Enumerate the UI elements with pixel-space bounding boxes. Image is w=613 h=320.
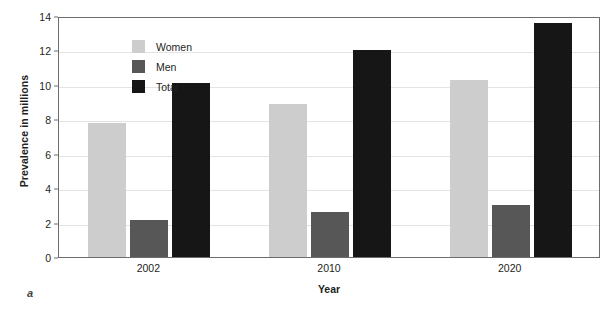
bar-women-2002 xyxy=(88,123,126,257)
legend-label-men: Men xyxy=(156,61,176,73)
y-tick-label: 4 xyxy=(45,183,51,195)
legend-swatch-men-icon xyxy=(132,60,145,73)
bar-total-2010 xyxy=(353,50,391,257)
y-tick-label: 0 xyxy=(45,252,51,264)
bar-total-2002 xyxy=(172,83,210,257)
bar-group-2010 xyxy=(240,18,421,257)
bar-men-2010 xyxy=(311,212,349,257)
legend-swatch-women-icon xyxy=(132,40,145,53)
bar-men-2020 xyxy=(492,205,530,257)
plot-area: Women Men Total xyxy=(58,17,600,258)
x-tick-label: 2002 xyxy=(137,262,160,274)
bar-men-2002 xyxy=(130,220,168,257)
y-axis-tick-labels: 02468101214 xyxy=(0,0,58,276)
y-tick-label: 12 xyxy=(39,45,51,57)
y-tick-label: 2 xyxy=(45,218,51,230)
x-axis-tick-labels: 200220102020 xyxy=(58,262,600,280)
bar-total-2020 xyxy=(534,23,572,257)
figure-panel: Prevalence in millions 02468101214 Women… xyxy=(0,0,613,320)
y-tick-label: 14 xyxy=(39,11,51,23)
legend-label-total: Total xyxy=(156,81,178,93)
legend-item-total: Total xyxy=(132,80,192,93)
legend-swatch-total-icon xyxy=(132,80,145,93)
y-tick-label: 8 xyxy=(45,114,51,126)
bar-women-2020 xyxy=(450,80,488,257)
x-tick-label: 2010 xyxy=(317,262,340,274)
legend-item-women: Women xyxy=(132,40,192,53)
panel-label: a xyxy=(27,287,33,299)
legend-label-women: Women xyxy=(156,41,192,53)
bar-group-2020 xyxy=(420,18,601,257)
legend-item-men: Men xyxy=(132,60,192,73)
legend: Women Men Total xyxy=(132,40,192,93)
y-tick-label: 6 xyxy=(45,149,51,161)
y-tick-label: 10 xyxy=(39,80,51,92)
x-axis-title: Year xyxy=(58,283,600,295)
x-tick-label: 2020 xyxy=(498,262,521,274)
bar-women-2010 xyxy=(269,104,307,257)
